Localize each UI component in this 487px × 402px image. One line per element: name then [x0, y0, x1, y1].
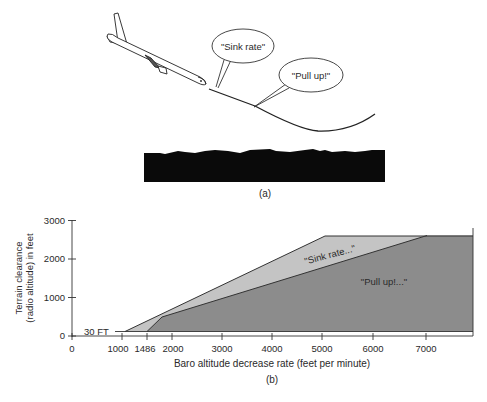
- speech-bubble-pull-up: "Pull up!": [254, 58, 343, 107]
- svg-text:0: 0: [60, 330, 65, 341]
- svg-text:1000: 1000: [107, 343, 128, 354]
- svg-text:2000: 2000: [44, 253, 65, 264]
- terrain-block: [144, 149, 385, 182]
- svg-text:7000: 7000: [415, 343, 436, 354]
- label-30ft: 30 FT: [84, 326, 109, 337]
- airplane-illustration: [107, 13, 206, 85]
- svg-text:3000: 3000: [44, 215, 65, 226]
- x-tick-labels: 0 1000 1486 2000 3000 4000 5000 6000 700…: [69, 343, 436, 354]
- caption-b: (b): [266, 374, 278, 385]
- svg-text:5000: 5000: [311, 343, 332, 354]
- x-axis-ticks: [72, 333, 426, 340]
- caption-a: (a): [259, 188, 271, 199]
- svg-text:3000: 3000: [211, 343, 232, 354]
- svg-text:6000: 6000: [362, 343, 383, 354]
- svg-text:4000: 4000: [261, 343, 282, 354]
- y-tick-labels: 3000 2000 1000 0: [44, 215, 65, 342]
- y-axis: [68, 220, 76, 337]
- svg-text:(radio altitude) in feet: (radio altitude) in feet: [24, 233, 35, 323]
- figure-canvas: "Sink rate" "Pull up!" (a) "Sink rate...…: [0, 0, 487, 402]
- speech-bubble-sink-rate: "Sink rate": [212, 29, 274, 88]
- flight-path: [209, 89, 375, 131]
- svg-text:2000: 2000: [162, 343, 183, 354]
- bubble-text-sink-rate: "Sink rate": [221, 41, 265, 52]
- x-axis-label: Baro altitude decrease rate (feet per mi…: [174, 358, 370, 369]
- svg-text:1000: 1000: [44, 292, 65, 303]
- bubble-text-pull-up: "Pull up!": [292, 70, 330, 81]
- label-pull-up-region: "Pull up!...": [361, 276, 407, 287]
- svg-text:1486: 1486: [134, 343, 155, 354]
- svg-text:0: 0: [69, 343, 74, 354]
- svg-text:Terrain clearance: Terrain clearance: [13, 242, 24, 315]
- y-axis-label: Terrain clearance (radio altitude) in fe…: [13, 233, 35, 323]
- chart-plot: "Sink rate..." "Pull up!..." 30 FT: [72, 228, 473, 337]
